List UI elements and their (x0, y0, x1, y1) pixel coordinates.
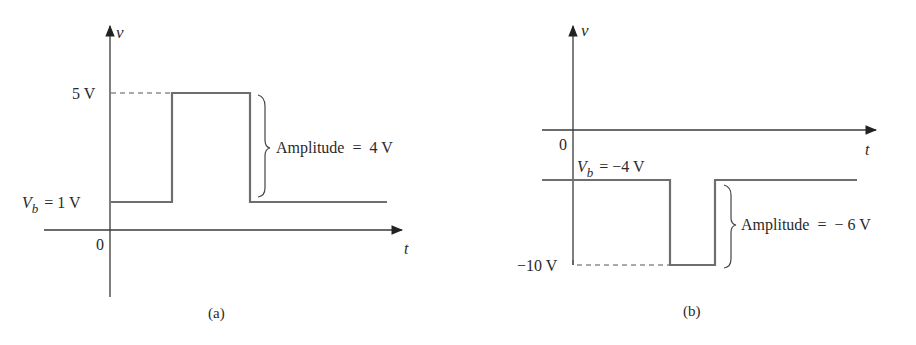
baseline-value-b: = −4 V (599, 158, 645, 175)
amplitude-label-b: Amplitude = − 6 V (741, 216, 871, 234)
baseline-label-a: Vb= 1 V (22, 194, 81, 216)
pulse-diagram: v t 0 5 V Vb= 1 V Amplitude = 4 V (a) v … (0, 0, 916, 345)
amplitude-brace-a (258, 95, 270, 197)
baseline-value-a: = 1 V (44, 194, 81, 211)
amplitude-brace-b (724, 185, 736, 268)
origin-label-a: 0 (96, 236, 104, 253)
origin-label-b: 0 (559, 136, 567, 153)
caption-a: (a) (208, 305, 225, 322)
v-axis-label-a: v (116, 23, 124, 42)
panel-a: v t 0 5 V Vb= 1 V Amplitude = 4 V (a) (22, 23, 409, 322)
bottom-level-label-b: −10 V (517, 257, 558, 274)
baseline-label-b: Vb= −4 V (577, 158, 645, 180)
v-axis-label-b: v (581, 21, 589, 40)
peak-level-label-a: 5 V (72, 85, 96, 102)
baseline-subscript-a: b (32, 201, 39, 216)
caption-b: (b) (683, 303, 701, 320)
t-axis-label-a: t (404, 240, 409, 257)
baseline-subscript-b: b (587, 165, 594, 180)
peak-reference-dash-b (573, 260, 670, 265)
amplitude-label-a: Amplitude = 4 V (276, 139, 393, 157)
panel-b: v t 0 −10 V Vb= −4 V Amplitude = − 6 V (… (517, 21, 876, 320)
t-axis-label-b: t (865, 141, 870, 158)
